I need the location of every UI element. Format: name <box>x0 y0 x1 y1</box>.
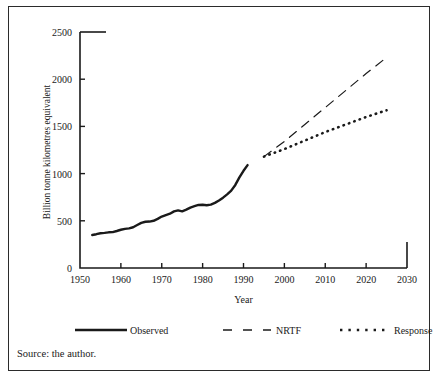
x-tick-label: 1950 <box>70 274 90 285</box>
legend-label-nrtf: NRTF <box>276 325 301 336</box>
y-tick-label: 2500 <box>27 27 72 38</box>
chart-canvas <box>9 7 431 372</box>
figure-panel: 05001000150020002500 1950196019701980199… <box>8 6 430 371</box>
axes-frame <box>80 32 407 268</box>
chart-plot: 05001000150020002500 1950196019701980199… <box>9 7 431 372</box>
x-tick-label: 2010 <box>315 274 335 285</box>
legend-item-response: Response <box>339 321 432 339</box>
series-line-response <box>264 110 387 156</box>
legend-swatch-response <box>339 325 391 335</box>
series-line-nrtf <box>264 57 387 156</box>
x-tick-label: 2020 <box>356 274 376 285</box>
x-tick-label: 1970 <box>152 274 172 285</box>
x-tick-label: 1980 <box>193 274 213 285</box>
x-tick-label: 1990 <box>234 274 254 285</box>
legend-label-response: Response <box>394 325 432 336</box>
y-axis-title: Billion tonne kilometres equivalent <box>42 67 52 237</box>
legend-item-nrtf: NRTF <box>221 321 301 339</box>
x-axis-title: Year <box>80 294 407 305</box>
y-tick-label: 0 <box>27 263 72 274</box>
legend-item-observed: Observed <box>75 321 168 339</box>
legend-swatch-nrtf <box>221 325 273 335</box>
legend-label-observed: Observed <box>130 325 168 336</box>
series-line-observed <box>92 165 247 235</box>
x-tick-label: 2030 <box>397 274 417 285</box>
chart-legend: Observed NRTF Response <box>69 321 419 343</box>
data-series-layer <box>92 57 386 234</box>
source-note: Source: the author. <box>17 348 96 359</box>
x-tick-label: 2000 <box>274 274 294 285</box>
x-tick-label: 1960 <box>111 274 131 285</box>
legend-swatch-observed <box>75 325 127 335</box>
